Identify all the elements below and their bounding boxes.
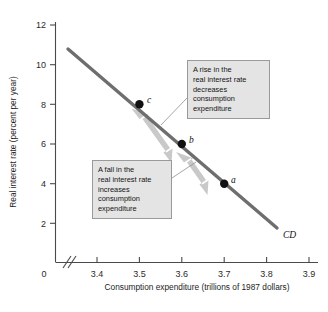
y-tick-label: 10 [36,60,46,70]
callout-rise-leader [161,98,187,125]
annotation-fall-box: A fall in the real interest rate increas… [92,160,172,219]
y-axis-ticks [50,25,56,223]
data-point-a [220,180,228,188]
annotation-rise-line: A rise in the [193,65,264,75]
y-tick-label: 4 [41,179,46,189]
annotation-rise-line: real interest rate [193,75,264,85]
annotation-fall-line: expenditure [98,204,166,214]
chart-canvas: 12 10 8 6 4 2 0 3.4 3.5 3.6 3.7 [0,0,328,312]
x-axis-title: Consumption expenditure (trillions of 19… [105,282,290,292]
data-point-label-b: b [189,135,194,145]
up-arrow-toward-c [132,109,173,164]
x-tick-label: 3.9 [303,269,316,279]
annotation-fall-line: increases [98,185,166,195]
annotation-fall-line: consumption [98,194,166,204]
x-tick-label: 3.5 [133,269,146,279]
x-tick-label: 3.8 [260,269,273,279]
x-tick-label: 3.7 [218,269,231,279]
y-axis-title: Real interest rate (percent per year) [8,76,18,208]
y-tick-label: 12 [36,20,46,30]
chart-figure: 12 10 8 6 4 2 0 3.4 3.5 3.6 3.7 [0,0,328,312]
data-point-label-a: a [231,175,236,185]
y-tick-label: 8 [41,100,46,110]
x-axis-ticks [97,257,309,263]
annotation-fall-line: A fall in the [98,165,166,175]
cd-curve-label: CD [283,230,296,240]
data-point-c [135,100,143,108]
x-origin-label: 0 [41,269,46,279]
data-point-b [178,140,186,148]
y-tick-label: 2 [41,219,46,229]
annotation-rise-line: decreases [193,85,264,95]
x-tick-label: 3.4 [91,269,104,279]
annotation-rise-line: consumption [193,94,264,104]
annotation-rise-line: expenditure [193,104,264,114]
x-tick-label: 3.6 [176,269,189,279]
y-tick-label: 6 [41,139,46,149]
y-axis-tick-labels: 12 10 8 6 4 2 [36,20,46,228]
x-axis-tick-labels: 3.4 3.5 3.6 3.7 3.8 3.9 [91,269,316,279]
down-arrow-toward-a [176,152,209,195]
annotation-rise-box: A rise in the real interest rate decreas… [187,60,270,119]
annotation-fall-line: real interest rate [98,175,166,185]
data-point-label-c: c [147,95,152,105]
